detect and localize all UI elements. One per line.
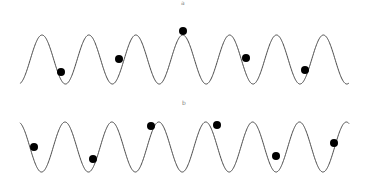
panel-b-ball [330, 139, 338, 147]
panel-b-ball [30, 143, 38, 151]
wave-diagram [0, 0, 367, 184]
panel-b-ball [89, 155, 97, 163]
panel-a-ball [301, 66, 309, 74]
panel-b-wave [20, 122, 349, 172]
panel-a-ball [242, 54, 250, 62]
panel-a-ball [179, 27, 187, 35]
panel-a-ball [57, 68, 65, 76]
panel-b-ball [147, 122, 155, 130]
panel-a-wave [20, 35, 349, 84]
panel-a-ball [115, 55, 123, 63]
panel-b-ball [272, 152, 280, 160]
panel-b-ball [213, 121, 221, 129]
